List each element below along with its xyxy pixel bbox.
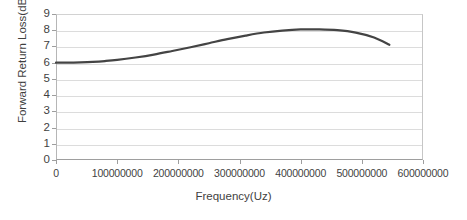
x-axis-tick-label: 600000000 (383, 167, 463, 179)
x-axis-tick-mark (423, 160, 424, 164)
y-axis-tick-label: 7 (26, 40, 50, 51)
y-axis-tick-mark (52, 95, 56, 96)
y-axis-tick-mark (52, 111, 56, 112)
x-axis-tick-mark (56, 160, 57, 164)
y-axis-tick-label: 4 (26, 89, 50, 100)
y-axis-tick-mark (52, 63, 56, 64)
x-axis-tick-mark (117, 160, 118, 164)
y-axis-tick-label: 1 (26, 138, 50, 149)
x-axis-tick-mark (240, 160, 241, 164)
x-axis-tick-mark (178, 160, 179, 164)
y-axis-tick-label: 0 (26, 154, 50, 165)
y-axis-tick-label: 9 (26, 8, 50, 19)
y-axis-tick-mark (52, 46, 56, 47)
y-axis-tick-label: 6 (26, 57, 50, 68)
y-axis-tick-mark (52, 79, 56, 80)
y-axis-tick-label: 2 (26, 122, 50, 133)
y-axis-tick-label: 3 (26, 105, 50, 116)
y-axis-tick-label: 5 (26, 73, 50, 84)
y-axis: 0123456789 (0, 0, 467, 220)
x-axis-tick-mark (362, 160, 363, 164)
x-axis-tick-mark (301, 160, 302, 164)
chart-container: 0123456789 01000000002000000003000000004… (0, 0, 467, 220)
y-axis-tick-label: 8 (26, 24, 50, 35)
y-axis-tick-mark (52, 128, 56, 129)
y-axis-tick-mark (52, 14, 56, 15)
y-axis-tick-mark (52, 144, 56, 145)
y-axis-tick-mark (52, 30, 56, 31)
y-axis-title: Forward Return Loss(dB) (16, 0, 29, 139)
x-axis-title: Frequency(Uz) (0, 190, 467, 203)
